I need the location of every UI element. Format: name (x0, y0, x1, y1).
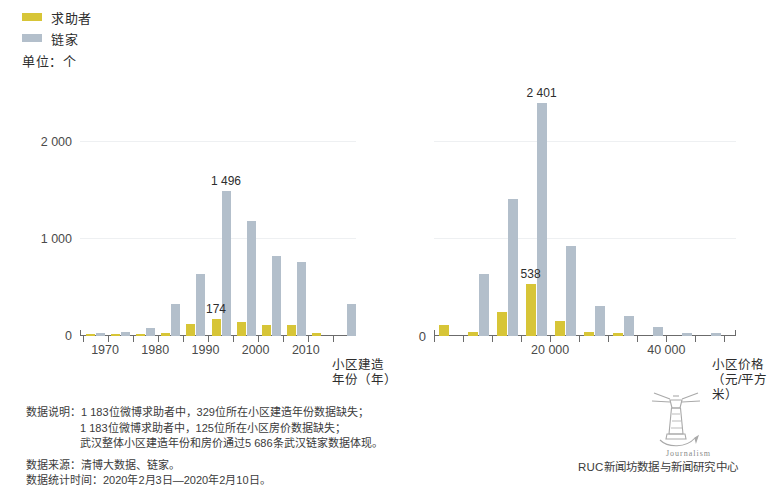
note-explanation-line-1: 数据说明：1 183位微博求助者中，329位所在小区建造年份数据缺失； (26, 405, 383, 421)
x-axis-tick (608, 336, 609, 342)
x-axis-tick-label: 1980 (141, 343, 169, 357)
bar-求助者-22500 (555, 321, 565, 336)
bar-求助者-1983 (161, 333, 170, 336)
bar-value-label: 538 (521, 267, 541, 281)
bar-链家-1978 (146, 328, 155, 336)
plot-area-house-price: 02 40153820 00040 000 (434, 92, 736, 336)
unit-label: 单位：个 (22, 51, 92, 70)
bar-求助者-32500 (613, 333, 623, 336)
x-axis-tick (158, 336, 159, 342)
y-axis-tick-label: 1 000 (41, 232, 72, 246)
legend-swatch-seeker (22, 13, 42, 21)
note-explanation-text-1: 1 183位微博求助者中，329位所在小区建造年份数据缺失； (81, 406, 369, 418)
x-axis-tick (666, 336, 667, 342)
x-axis-tick (308, 336, 309, 342)
bar-value-label: 1 496 (211, 174, 241, 188)
legend-item-lianjia: 链家 (22, 29, 92, 47)
infographic-root: 求助者 链家 单位：个 01 0002 0001 496174197019801… (0, 0, 774, 488)
note-source: 数据来源：清博大数据、链家。 (26, 458, 383, 474)
x-axis-tick (283, 336, 284, 342)
bar-链家-32500 (624, 316, 634, 336)
bar-求助者-17500 (526, 284, 536, 336)
bar-求助者-1968 (86, 334, 95, 336)
bar-链家-27500 (595, 306, 605, 336)
x-axis-tick (108, 336, 109, 342)
x-axis-tick (724, 336, 725, 342)
bar-链家-1998 (247, 221, 256, 336)
bar-链家-2018 (347, 304, 356, 336)
bar-链家-1988 (196, 274, 205, 336)
x-axis-tick (695, 336, 696, 342)
bar-求助者-1998 (237, 322, 246, 336)
legend-label-seeker: 求助者 (51, 8, 92, 27)
bar-链家-2008 (297, 262, 306, 336)
x-axis-tick (550, 336, 551, 342)
axis-end-cap (80, 330, 81, 336)
gridline (80, 141, 356, 142)
bar-value-label: 2 401 (527, 86, 557, 100)
x-axis-tick (133, 336, 134, 342)
bar-求助者-12500 (497, 312, 507, 336)
bar-链家-12500 (508, 199, 518, 336)
credit-org: RUC新闻坊数据与新闻研究中心 (558, 458, 758, 474)
note-explanation-label: 数据说明： (26, 406, 81, 418)
axis-end-cap (735, 330, 736, 336)
note-period: 数据统计时间：2020年2月3日—2020年2月10日。 (26, 473, 383, 488)
legend: 求助者 链家 单位：个 (22, 8, 92, 70)
x-axis-title-build-year: 小区建造年份（年） (332, 358, 394, 388)
plot-area-build-year: 01 0002 0001 49617419701980199020002010 (80, 92, 356, 336)
bar-求助者-2500 (439, 325, 449, 336)
x-axis-tick-label: 1990 (192, 343, 220, 357)
legend-swatch-lianjia (22, 34, 42, 42)
bar-求助者-2008 (287, 325, 296, 336)
gridline (434, 141, 736, 142)
gridline (80, 238, 356, 239)
bar-求助者-2013 (312, 333, 321, 336)
bar-求助者-1973 (111, 334, 120, 336)
bar-求助者-1978 (136, 334, 145, 336)
y-axis-tick-label: 0 (65, 329, 72, 343)
x-axis-tick (333, 336, 334, 342)
x-axis-tick-label: 2000 (242, 343, 270, 357)
bar-链家-1968 (96, 333, 105, 336)
x-axis-tick (208, 336, 209, 342)
x-axis-tick-label: 20 000 (531, 343, 569, 357)
y-axis-tick-label: 2 000 (41, 135, 72, 149)
x-axis-tick-label: 1970 (91, 343, 119, 357)
x-axis-tick (233, 336, 234, 342)
x-axis-tick-label: 40 000 (647, 343, 685, 357)
bar-链家-7500 (479, 274, 489, 336)
x-axis-tick (83, 336, 84, 342)
x-axis-tick (492, 336, 493, 342)
bar-求助者-2003 (262, 325, 271, 336)
bar-链家-37500 (653, 327, 663, 336)
note-explanation-line-2: 1 183位微博求助者中，125位所在小区房价数据缺失； (26, 421, 383, 437)
bar-求助者-7500 (468, 332, 478, 336)
chart-house-price: 02 40153820 00040 000 (404, 92, 744, 354)
bar-链家-2003 (272, 256, 281, 336)
legend-item-seeker: 求助者 (22, 8, 92, 26)
bar-链家-1973 (121, 332, 130, 336)
footnotes: 数据说明：1 183位微博求助者中，329位所在小区建造年份数据缺失； 1 18… (26, 405, 383, 488)
bar-求助者-1993 (212, 319, 221, 336)
x-axis-title-house-price: 小区价格（元/平方米） (712, 358, 774, 403)
logo-wordmark: Journalism (666, 449, 711, 458)
note-explanation-line-3: 武汉整体小区建造年份和房价通过5 686条武汉链家数据体现。 (26, 436, 383, 452)
credit: RUC新闻坊数据与新闻研究中心 (558, 458, 758, 474)
bar-链家-47500 (711, 333, 721, 336)
x-axis-tick (258, 336, 259, 342)
x-axis-tick (183, 336, 184, 342)
bar-链家-17500 (537, 103, 547, 336)
chart-build-year: 01 0002 0001 49617419701980199020002010 (24, 92, 364, 354)
x-axis-tick (463, 336, 464, 342)
bar-求助者-27500 (584, 332, 594, 336)
x-axis-tick (434, 336, 435, 342)
x-axis-tick (637, 336, 638, 342)
bar-链家-22500 (566, 246, 576, 336)
gridline (434, 238, 736, 239)
bar-链家-42500 (682, 333, 692, 336)
bar-value-label: 174 (206, 302, 226, 316)
x-axis-tick (521, 336, 522, 342)
lighthouse-logo-icon (640, 390, 712, 454)
y-axis-tick-label: 0 (419, 329, 426, 344)
